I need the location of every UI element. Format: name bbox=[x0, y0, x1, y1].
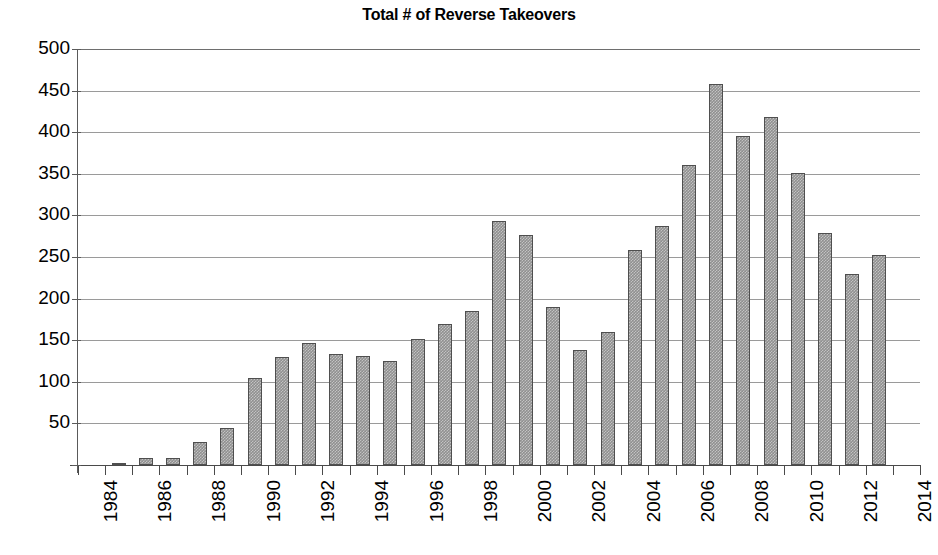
bar-1986 bbox=[139, 458, 153, 465]
y-axis-tick-label: 200 bbox=[18, 288, 70, 307]
y-axis-tick-mark bbox=[72, 299, 81, 300]
x-axis-tick-mark bbox=[621, 466, 622, 475]
chart-title: Total # of Reverse Takeovers bbox=[0, 6, 938, 24]
bar-2007 bbox=[709, 84, 723, 465]
bar-1999 bbox=[492, 221, 506, 465]
x-axis-tick-mark bbox=[730, 466, 731, 475]
plot-area bbox=[78, 49, 920, 465]
x-axis-tick-mark bbox=[404, 466, 405, 475]
x-axis-tick-label: 2002 bbox=[589, 480, 608, 522]
bar-1995 bbox=[383, 361, 397, 465]
y-axis-tick-mark-zero bbox=[72, 465, 81, 466]
bar-1994 bbox=[356, 356, 370, 465]
x-axis-tick-label: 2006 bbox=[698, 480, 717, 522]
x-axis-tick-mark bbox=[648, 466, 649, 475]
bar-2000 bbox=[519, 235, 533, 465]
bar-2001 bbox=[546, 307, 560, 465]
x-axis-tick-label: 2014 bbox=[915, 480, 934, 522]
y-axis-tick-mark bbox=[72, 132, 81, 133]
bar-2003 bbox=[601, 332, 615, 465]
y-axis-tick-label: 250 bbox=[18, 246, 70, 265]
y-axis-tick-mark bbox=[72, 174, 81, 175]
bar-1989 bbox=[220, 428, 234, 465]
bar-1990 bbox=[248, 378, 262, 465]
bar-2008 bbox=[736, 136, 750, 465]
bar-2009 bbox=[764, 117, 778, 465]
bar-1991 bbox=[275, 357, 289, 465]
x-axis-tick-mark bbox=[540, 466, 541, 475]
bar-2006 bbox=[682, 165, 696, 465]
y-axis-tick-label: 100 bbox=[18, 371, 70, 390]
x-axis-tick-label: 2010 bbox=[807, 480, 826, 522]
y-axis-tick-mark bbox=[72, 257, 81, 258]
bar-1985 bbox=[112, 463, 126, 465]
x-axis-tick-label: 2012 bbox=[861, 480, 880, 522]
y-axis-tick-label: 500 bbox=[18, 38, 70, 57]
x-axis-tick-mark bbox=[377, 466, 378, 475]
x-axis-tick-mark bbox=[594, 466, 595, 475]
y-axis-tick-mark bbox=[72, 340, 81, 341]
x-axis-tick-mark bbox=[350, 466, 351, 475]
x-axis-tick-label: 1986 bbox=[155, 480, 174, 522]
y-axis-tick-mark bbox=[72, 215, 81, 216]
y-axis-tick-label: 150 bbox=[18, 329, 70, 348]
bar-1996 bbox=[411, 339, 425, 465]
bar-1988 bbox=[193, 442, 207, 465]
x-axis-tick-label: 2000 bbox=[535, 480, 554, 522]
x-axis-tick-mark bbox=[268, 466, 269, 475]
bar-2004 bbox=[628, 250, 642, 465]
bar-1987 bbox=[166, 458, 180, 465]
y-axis-tick-label: 350 bbox=[18, 163, 70, 182]
x-axis-tick-label: 2004 bbox=[644, 480, 663, 522]
y-axis-labels: 50045040035030025020015010050 bbox=[8, 0, 70, 555]
x-axis-tick-mark bbox=[920, 466, 921, 475]
y-axis-tick-label: 400 bbox=[18, 121, 70, 140]
x-axis-tick-mark bbox=[811, 466, 812, 475]
y-axis-tick-label: 300 bbox=[18, 204, 70, 223]
x-axis-tick-mark bbox=[295, 466, 296, 475]
x-axis-tick-mark bbox=[458, 466, 459, 475]
x-axis-tick-mark bbox=[893, 466, 894, 475]
bar-1993 bbox=[329, 354, 343, 465]
x-axis-tick-mark bbox=[513, 466, 514, 475]
x-axis-tick-label: 1998 bbox=[481, 480, 500, 522]
x-axis-tick-mark bbox=[485, 466, 486, 475]
bar-2002 bbox=[573, 350, 587, 465]
x-axis-tick-label: 1994 bbox=[372, 480, 391, 522]
page-edge-artifact bbox=[0, 549, 938, 555]
x-axis-line bbox=[70, 465, 921, 466]
x-axis-tick-label: 1988 bbox=[209, 480, 228, 522]
x-axis-tick-mark bbox=[322, 466, 323, 475]
bar-1998 bbox=[465, 311, 479, 465]
x-axis-tick-mark bbox=[866, 466, 867, 475]
bar-2010 bbox=[791, 173, 805, 465]
x-axis-tick-mark bbox=[78, 466, 79, 475]
x-axis-tick-mark bbox=[159, 466, 160, 475]
x-axis-tick-mark bbox=[241, 466, 242, 475]
x-axis-tick-mark bbox=[757, 466, 758, 475]
y-axis-tick-mark bbox=[72, 382, 81, 383]
x-axis-tick-mark bbox=[132, 466, 133, 475]
gridline-450 bbox=[78, 91, 920, 92]
x-axis-tick-mark bbox=[214, 466, 215, 475]
bar-2011 bbox=[818, 233, 832, 465]
x-axis-tick-label: 1990 bbox=[264, 480, 283, 522]
bar-1997 bbox=[438, 324, 452, 465]
y-axis-tick-label: 50 bbox=[18, 412, 70, 431]
gridline-500 bbox=[78, 49, 920, 50]
y-axis-tick-mark bbox=[72, 49, 81, 50]
x-axis-tick-mark bbox=[784, 466, 785, 475]
y-axis-tick-label: 450 bbox=[18, 80, 70, 99]
x-axis-tick-mark bbox=[567, 466, 568, 475]
bar-2013 bbox=[872, 255, 886, 465]
y-axis-tick-mark bbox=[72, 91, 81, 92]
x-axis-tick-label: 1992 bbox=[318, 480, 337, 522]
bar-2005 bbox=[655, 226, 669, 465]
bar-1992 bbox=[302, 343, 316, 465]
bar-2012 bbox=[845, 274, 859, 465]
x-axis-tick-mark bbox=[431, 466, 432, 475]
y-axis-tick-mark bbox=[72, 423, 81, 424]
x-axis-tick-label: 1984 bbox=[101, 480, 120, 522]
x-axis-tick-mark bbox=[676, 466, 677, 475]
x-axis-tick-mark bbox=[839, 466, 840, 475]
